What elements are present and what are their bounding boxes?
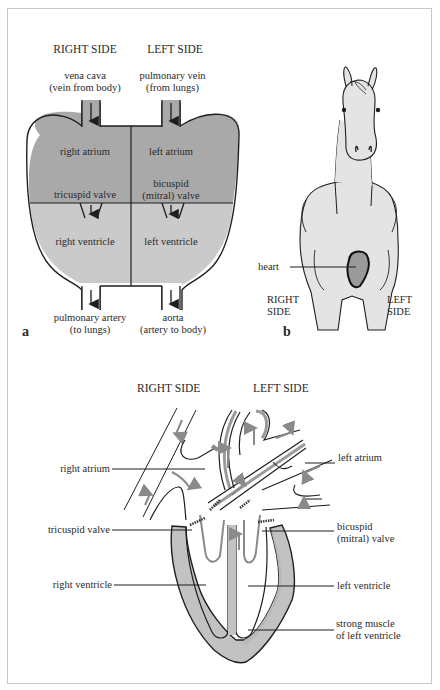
panel-c-left-atrium-label: left atrium [338, 452, 382, 464]
panel-c-tricuspid-label: tricuspid valve [10, 524, 110, 536]
panel-c-bicuspid-line2: (mitral) valve [337, 533, 394, 545]
panel-c-right-atrium-label: right atrium [20, 463, 110, 475]
panel-c-muscle-line1: strong muscle [336, 618, 401, 630]
panel-c-right-ventricle-label: right ventricle [10, 579, 112, 591]
panel-c-right-side-header: RIGHT SIDE [137, 382, 200, 394]
panel-c-left-side-header: LEFT SIDE [253, 382, 309, 394]
panel-c-muscle-label: strong muscle of left ventricle [336, 618, 401, 642]
panel-c-left-ventricle-label: left ventricle [337, 580, 390, 592]
panel-c-muscle-line2: of left ventricle [336, 630, 401, 642]
panel-c-bicuspid-label: bicuspid (mitral) valve [337, 521, 394, 545]
panel-c-bicuspid-line1: bicuspid [337, 521, 394, 533]
